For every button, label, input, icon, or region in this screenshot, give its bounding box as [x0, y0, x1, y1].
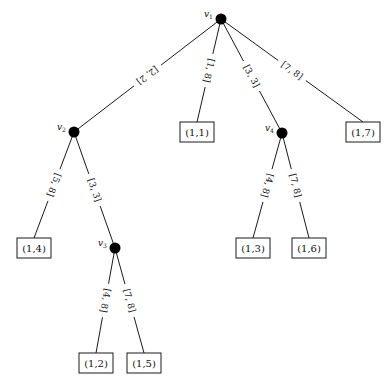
edge-v1-v2 [74, 86, 134, 132]
edge-v4-l16 [300, 202, 309, 238]
tree-node-v3: v3 [98, 238, 121, 254]
edge-label: [4, 8] [259, 173, 275, 199]
leaf-label: (1,7) [351, 127, 375, 138]
leaf-box: (1,3) [236, 238, 270, 258]
tree-node-v4: v4 [265, 123, 288, 139]
leaf-box: (1,4) [17, 238, 51, 258]
edge-v2-l14 [60, 132, 74, 169]
edge-v3-l12 [96, 317, 102, 353]
edge-v4-l13 [253, 202, 263, 238]
node-label: v4 [265, 123, 274, 134]
edge-v4-l16 [282, 133, 291, 169]
node-label: v1 [204, 9, 213, 20]
leaf-box: (1,6) [292, 238, 326, 258]
edge-v1-l17 [221, 19, 278, 61]
edge-label: [7, 8] [121, 288, 137, 314]
leaf-box: (1,2) [79, 353, 113, 373]
node-dot-icon [216, 14, 227, 25]
tree-diagram: [2, 2][1, 8][3, 3][7, 8][5, 8][3, 3][4, … [0, 0, 390, 385]
edge-label: [4, 8] [98, 288, 112, 314]
leaf-label: (1,1) [185, 127, 209, 138]
node-label: v3 [98, 238, 107, 249]
leaf-box: (1,7) [346, 122, 380, 142]
edge-v1-l17 [306, 80, 363, 122]
edge-label: [3, 3] [86, 177, 103, 203]
node-label: v2 [57, 122, 66, 133]
edge-label: [7, 8] [279, 59, 304, 81]
edge-label: [5, 8] [45, 172, 63, 198]
edge-v1-l11 [197, 87, 205, 122]
leaf-label: (1,6) [297, 243, 321, 254]
leaf-box: (1,5) [127, 353, 161, 373]
node-dot-icon [110, 243, 121, 254]
leaf-box: (1,1) [180, 122, 214, 142]
edge-label: [2, 2] [135, 64, 160, 87]
tree-node-v1: v1 [204, 9, 227, 25]
leaf-label: (1,4) [22, 243, 46, 254]
edge-label: [1, 8] [201, 58, 216, 84]
leaf-label: (1,3) [241, 243, 265, 254]
tree-node-v2: v2 [57, 122, 80, 138]
node-dot-icon [277, 128, 288, 139]
leaf-label: (1,2) [84, 358, 108, 369]
edge-label: [3, 3] [241, 63, 261, 89]
node-dot-icon [69, 127, 80, 138]
edge-v2-v3 [74, 132, 89, 174]
edge-v2-l14 [34, 201, 48, 238]
edge-label: [7, 8] [288, 173, 304, 199]
edge-v4-l13 [272, 133, 282, 169]
leaf-label: (1,5) [132, 358, 156, 369]
edge-v3-l15 [115, 248, 125, 284]
edge-v3-l15 [134, 317, 144, 353]
edge-v1-v4 [221, 19, 243, 61]
